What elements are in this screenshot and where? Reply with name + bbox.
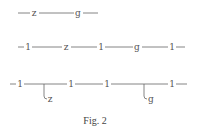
figure-diagram: z g 1 z 1 g 1 1 1 1 1 z g Fig. 2 xyxy=(0,0,197,132)
node-label: 1 xyxy=(68,79,74,89)
row-3: 1 1 1 1 z g xyxy=(10,79,187,104)
branch-connector xyxy=(144,84,147,99)
node-label: 1 xyxy=(169,79,175,89)
row-1: z g xyxy=(18,8,98,18)
node-label: z xyxy=(32,8,37,18)
node-label: 1 xyxy=(17,79,23,89)
node-label: g xyxy=(75,8,81,18)
node-label: z xyxy=(64,42,69,52)
node-label: 1 xyxy=(98,42,104,52)
node-label: 1 xyxy=(25,42,31,52)
figure-caption: Fig. 2 xyxy=(83,115,106,126)
node-label: g xyxy=(134,42,140,52)
branch-connector xyxy=(44,84,47,99)
node-label: 1 xyxy=(169,42,175,52)
node-label: 1 xyxy=(104,79,110,89)
branch-label: z xyxy=(48,94,53,104)
branch-label: g xyxy=(148,94,154,104)
row-2: 1 z 1 g 1 xyxy=(18,42,185,52)
